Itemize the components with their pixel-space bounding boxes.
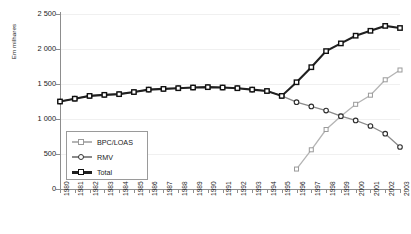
x-tick-label: 2002 <box>388 181 395 196</box>
legend-line-bpc-loas <box>72 141 92 143</box>
x-tick <box>237 189 238 193</box>
x-tick-label: 1996 <box>299 181 306 196</box>
x-tick-label: 1982 <box>92 181 99 196</box>
y-tick-label: 1 500 <box>4 79 56 88</box>
x-tick <box>134 189 135 193</box>
y-tick <box>56 119 60 120</box>
legend-item-total[interactable]: Total <box>72 166 112 178</box>
x-tick <box>311 189 312 193</box>
x-tick-label: 1997 <box>314 181 321 196</box>
x-tick <box>208 189 209 193</box>
x-tick-label: 2003 <box>403 181 410 196</box>
gridline <box>60 49 400 50</box>
y-tick <box>56 14 60 15</box>
y-tick-label: 2 000 <box>4 44 56 53</box>
x-tick <box>60 189 61 193</box>
legend-marker-square <box>78 169 84 175</box>
y-tick <box>56 154 60 155</box>
x-tick-label: 1981 <box>77 181 84 196</box>
x-tick-label: 1995 <box>284 181 291 196</box>
x-tick <box>252 189 253 193</box>
gridline <box>60 84 400 85</box>
x-tick-label: 1999 <box>343 181 350 196</box>
legend-marker-circle <box>78 154 84 160</box>
x-tick-label: 2001 <box>373 181 380 196</box>
x-tick <box>356 189 357 193</box>
x-tick <box>297 189 298 193</box>
x-tick-label: 1989 <box>196 181 203 196</box>
x-tick-label: 1990 <box>210 181 217 196</box>
gridline <box>60 119 400 120</box>
x-tick-label: 1985 <box>137 181 144 196</box>
x-tick <box>90 189 91 193</box>
legend-marker-square <box>78 139 84 145</box>
y-axis-line <box>60 12 61 191</box>
x-tick-label: 1980 <box>63 181 70 196</box>
x-tick-label: 1998 <box>329 181 336 196</box>
y-tick-label: 0 <box>4 184 56 193</box>
x-tick-label: 1987 <box>166 181 173 196</box>
y-tick-label: 500 <box>4 149 56 158</box>
legend: BPC/LOAS RMV Total <box>66 131 148 180</box>
x-tick <box>385 189 386 193</box>
y-tick-label: 2 500 <box>4 9 56 18</box>
x-tick-label: 1992 <box>240 181 247 196</box>
x-tick <box>400 189 401 193</box>
x-tick <box>193 189 194 193</box>
gridline <box>60 14 400 15</box>
x-tick <box>104 189 105 193</box>
x-tick <box>223 189 224 193</box>
legend-label-total: Total <box>97 168 112 177</box>
legend-line-total <box>72 171 92 174</box>
x-tick <box>149 189 150 193</box>
chart-container: Em milhares 05001 0001 5002 0002 500 198… <box>0 0 411 234</box>
x-tick <box>163 189 164 193</box>
x-tick-label: 1991 <box>225 181 232 196</box>
x-tick <box>370 189 371 193</box>
x-tick-label: 1984 <box>122 181 129 196</box>
x-tick-label: 1993 <box>255 181 262 196</box>
y-tick <box>56 49 60 50</box>
x-tick-label: 2000 <box>358 181 365 196</box>
legend-item-bpc-loas[interactable]: BPC/LOAS <box>72 136 133 148</box>
legend-item-rmv[interactable]: RMV <box>72 151 113 163</box>
x-tick-label: 1986 <box>151 181 158 196</box>
x-tick <box>178 189 179 193</box>
x-tick <box>326 189 327 193</box>
y-axis-label: Em milhares <box>10 12 17 72</box>
legend-line-rmv <box>72 156 92 158</box>
legend-label-rmv: RMV <box>97 153 113 162</box>
x-tick <box>282 189 283 193</box>
x-tick <box>119 189 120 193</box>
x-tick <box>267 189 268 193</box>
x-tick-label: 1994 <box>270 181 277 196</box>
y-tick-label: 1 000 <box>4 114 56 123</box>
x-tick <box>75 189 76 193</box>
y-tick <box>56 84 60 85</box>
x-tick <box>341 189 342 193</box>
x-tick-label: 1988 <box>181 181 188 196</box>
legend-label-bpc-loas: BPC/LOAS <box>97 138 133 147</box>
x-tick-label: 1983 <box>107 181 114 196</box>
